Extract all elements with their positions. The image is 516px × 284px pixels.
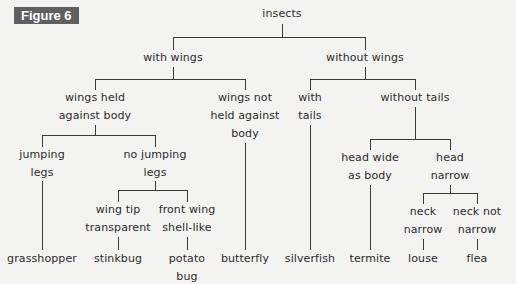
node-line: transparent (85, 219, 150, 237)
node-jumping-legs: jumping legs (19, 146, 64, 182)
node-line: as body (341, 167, 399, 185)
leaf-butterfly: butterfly (221, 250, 269, 268)
node-neck-not-narrow: neck not narrow (453, 203, 501, 239)
node-line: jumping (19, 146, 64, 164)
node-line: narrow (453, 221, 501, 239)
node-line: potato (169, 250, 205, 268)
leaf-grasshopper: grasshopper (7, 250, 77, 268)
node-line: held against (210, 107, 279, 125)
leaf-termite: termite (350, 250, 391, 268)
node-with-tails: with tails (298, 89, 322, 125)
node-line: narrow (431, 167, 470, 185)
leaf-flea: flea (467, 250, 488, 268)
node-without-wings: without wings (326, 49, 404, 67)
node-head-narrow: head narrow (431, 149, 470, 185)
node-line: body (210, 125, 279, 143)
node-line: tails (298, 107, 322, 125)
node-wing-tip-transparent: wing tip transparent (85, 201, 150, 237)
node-head-wide-as-body: head wide as body (341, 149, 399, 185)
node-line: head (431, 149, 470, 167)
leaf-louse: louse (408, 250, 438, 268)
node-line: neck not (453, 203, 501, 221)
node-line: shell-like (159, 219, 216, 237)
node-line: bug (169, 268, 205, 284)
leaf-silverfish: silverfish (285, 250, 335, 268)
node-neck-narrow: neck narrow (404, 203, 443, 239)
node-line: no jumping (124, 146, 187, 164)
node-line: neck (404, 203, 443, 221)
node-line: with (298, 89, 322, 107)
node-line: legs (19, 164, 64, 182)
node-no-jumping-legs: no jumping legs (124, 146, 187, 182)
node-line: wings not (210, 89, 279, 107)
node-line: narrow (404, 221, 443, 239)
node-without-tails: without tails (380, 89, 449, 107)
node-line: head wide (341, 149, 399, 167)
leaf-potato-bug: potato bug (169, 250, 205, 284)
leaf-stinkbug: stinkbug (94, 250, 142, 268)
node-insects: insects (262, 5, 301, 23)
node-line: wings held (59, 89, 131, 107)
node-wings-held-against-body: wings held against body (59, 89, 131, 125)
node-line: against body (59, 107, 131, 125)
node-line: wing tip (85, 201, 150, 219)
node-with-wings: with wings (143, 49, 203, 67)
node-front-wing-shell-like: front wing shell-like (159, 201, 216, 237)
node-wings-not-held-against-body: wings not held against body (210, 89, 279, 143)
node-line: legs (124, 164, 187, 182)
node-line: front wing (159, 201, 216, 219)
